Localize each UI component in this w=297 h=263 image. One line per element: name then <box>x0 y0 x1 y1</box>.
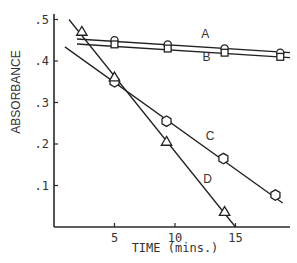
y-axis-label: ABSORBANCE <box>9 50 23 133</box>
square-marker-b <box>164 45 171 52</box>
y-tick-label: .4 <box>35 54 49 68</box>
fit-lines <box>65 20 290 228</box>
hexagon-marker-c <box>162 116 171 126</box>
y-tick-label: .2 <box>35 137 49 151</box>
series-label-b: B <box>202 50 210 64</box>
square-marker-b <box>111 41 118 48</box>
hexagon-marker-c <box>219 153 228 163</box>
hexagon-marker-c <box>271 190 280 200</box>
triangle-marker-d <box>109 72 119 81</box>
fit-line-d <box>69 20 235 228</box>
y-tick-label: .3 <box>35 96 49 110</box>
square-marker-b <box>277 53 284 60</box>
x-tick-label: 15 <box>228 231 242 245</box>
absorbance-time-chart: 51015.1.2.3.4.5 ABCD ABSORBANCE TIME (mi… <box>0 0 297 263</box>
series-label-a: A <box>201 27 209 41</box>
y-tick-label: .5 <box>35 13 49 27</box>
y-tick-label: .1 <box>35 179 49 193</box>
x-axis-label: TIME (mins.) <box>132 241 219 255</box>
fit-line-c <box>65 47 283 203</box>
series-label-d: D <box>203 172 212 186</box>
square-marker-b <box>221 49 228 56</box>
series-labels: ABCD <box>201 27 215 186</box>
series-label-c: C <box>206 129 215 143</box>
x-tick-label: 5 <box>111 231 118 245</box>
triangle-marker-d <box>161 136 171 145</box>
